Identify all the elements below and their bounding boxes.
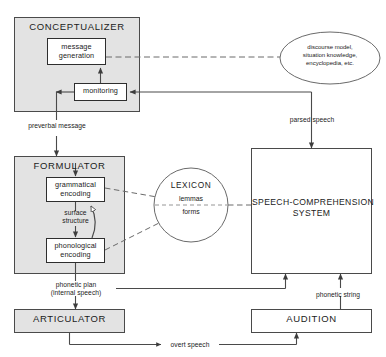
monitoring-box-shape (75, 84, 127, 101)
message-generation-box-shape (48, 39, 106, 65)
diagram-canvas (0, 0, 386, 357)
grammatical-encoding-box-shape (47, 178, 105, 202)
phonological-encoding-box-shape (47, 239, 105, 263)
articulator-module-shape (15, 310, 125, 333)
audition-module-shape (252, 310, 372, 333)
speech-production-diagram: CONCEPTUALIZER message generation monito… (0, 0, 386, 357)
knowledge-store-ellipse-shape (280, 32, 380, 84)
speech-comprehension-system-shape (252, 149, 372, 274)
